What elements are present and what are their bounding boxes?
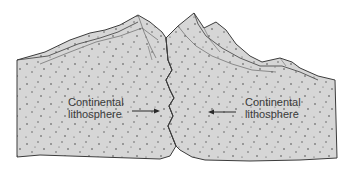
left-label-line1: Continental [68,96,124,108]
left-plate-label: Continental lithosphere [68,96,124,120]
left-label-line2: lithosphere [68,108,124,120]
left-plate [17,15,176,159]
right-plate-label: Continental lithosphere [245,96,301,120]
right-plate [166,13,337,161]
collision-diagram: Continental lithosphere Continental lith… [0,0,351,169]
right-label-line2: lithosphere [245,108,301,120]
lithosphere-block [0,0,351,169]
right-label-line1: Continental [245,96,301,108]
